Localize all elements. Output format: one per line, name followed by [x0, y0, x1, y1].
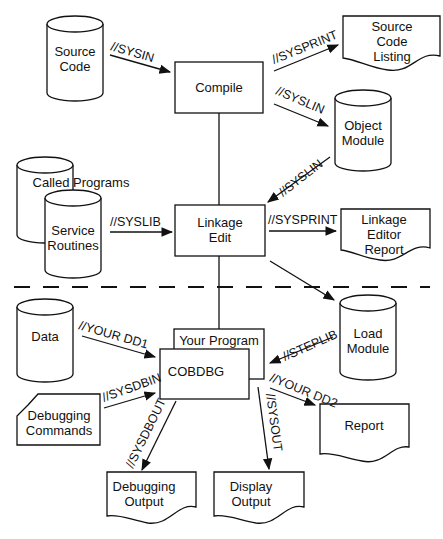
- object-module-label: ObjectModule: [342, 118, 385, 148]
- source-code-label: SourceCode: [54, 44, 95, 74]
- source-listing-label: SourceCodeListing: [371, 19, 412, 64]
- service-routines-label: ServiceRoutines: [47, 223, 99, 253]
- edge-label-syslin-1: //SYSLIN: [274, 84, 327, 117]
- edge-label-steplib: //STEPLIB: [281, 327, 340, 364]
- edge-label-syslin-2: //SYSLIN: [276, 157, 325, 200]
- edge-label-sysprint-2: //SYSPRINT: [268, 213, 338, 227]
- data-label: Data: [31, 329, 59, 344]
- called-programs-label: Called Programs: [33, 175, 130, 190]
- compile-label: Compile: [195, 80, 243, 95]
- display-output-label: DisplayOutput: [230, 479, 273, 509]
- arrow-to-load-module: [270, 261, 334, 300]
- edge-label-sysout: //SYSOUT: [263, 392, 285, 452]
- cobdbg-label: COBDBG: [168, 364, 224, 379]
- debug-commands-label: DebuggingCommands: [26, 408, 93, 438]
- edge-label-sysdbout: //SYSDBOUT: [123, 396, 169, 471]
- edge-label-sysprint-1: //SYSPRINT: [270, 28, 340, 67]
- linkage-report-label: LinkageEditorReport: [361, 212, 407, 257]
- cobol-debug-flow-diagram: SourceCode Compile SourceCodeListing Obj…: [0, 0, 443, 539]
- your-program-label: Your Program: [179, 333, 259, 348]
- report-label: Report: [344, 418, 383, 433]
- edge-label-yourdd1: //YOUR DD1: [77, 318, 150, 351]
- edge-label-syslib: //SYSLIB: [110, 215, 161, 229]
